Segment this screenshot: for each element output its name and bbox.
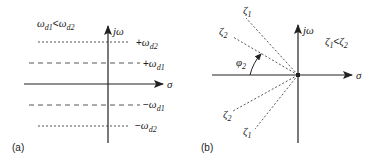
angle-arc-icon [250,54,261,75]
label-plus-wd2: +ωd2 [136,36,158,51]
label-plus-wd1: +ωd1 [143,57,165,72]
panel-b-sigma-label: σ [356,69,362,81]
panel-b: φ2 jω σ ζ1<ζ2 ζ1 ζ2 ζ2 ζ1 (b) [201,4,362,153]
panel-a-condition: ωd1<ωd2 [37,17,74,32]
origin-marker [296,73,300,77]
ray-zeta1-lower [255,75,298,129]
panel-a-jw-label: jω [111,25,124,37]
panel-a-caption: (a) [12,142,24,153]
panel-a-sigma-label: σ [167,78,173,90]
panel-b-condition: ζ1<ζ2 [325,35,348,50]
label-zeta2-lower: ζ2 [223,108,231,123]
panel-b-jw-label: jω [301,24,314,36]
label-minus-wd1: −ωd1 [143,98,165,113]
ray-zeta1-upper [246,18,298,75]
ray-zeta2-lower [233,75,298,111]
label-zeta2-upper: ζ2 [219,25,227,40]
label-zeta1-upper: ζ1 [243,4,251,19]
figure: ωd1<ωd2 jω σ +ωd2 +ωd1 −ωd1 −ωd2 (a) φ2 [0,0,381,163]
panel-a: ωd1<ωd2 jω σ +ωd2 +ωd1 −ωd1 −ωd2 (a) [12,17,173,153]
panel-b-caption: (b) [201,142,213,153]
angle-phi2-label: φ2 [236,56,246,71]
label-minus-wd2: −ωd2 [135,119,157,134]
label-zeta1-lower: ζ1 [243,125,251,140]
